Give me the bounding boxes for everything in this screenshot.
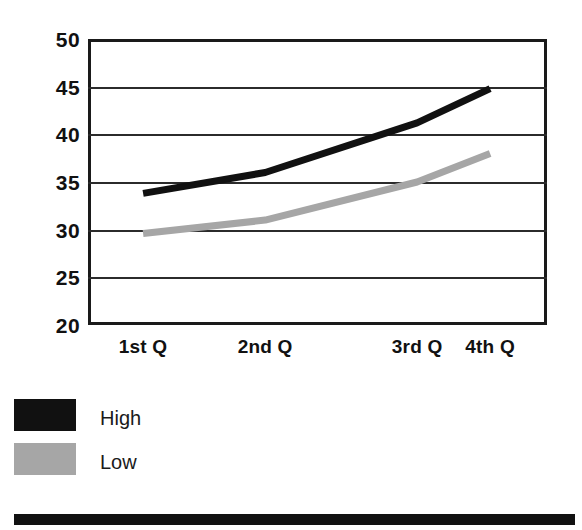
line-chart-figure: 50 45 40 35 30 25 20 1st Q 2nd Q 3rd Q 4…: [0, 0, 582, 530]
x-tick-label: 2nd Q: [238, 337, 293, 356]
y-tick-label: 25: [8, 267, 80, 288]
x-axis-tick-labels: 1st Q 2nd Q 3rd Q 4th Q: [88, 337, 547, 363]
legend-label-high: High: [100, 408, 141, 428]
legend-label-low: Low: [100, 452, 137, 472]
chart-legend: High Low: [14, 399, 274, 487]
series-line-low: [143, 153, 490, 233]
legend-item-high: High: [14, 399, 274, 443]
series-line-high: [143, 89, 490, 194]
legend-swatch-low: [14, 443, 76, 475]
bottom-rule: [14, 514, 575, 525]
series-layer: [88, 39, 547, 325]
y-tick-label: 40: [8, 124, 80, 145]
x-tick-label: 1st Q: [119, 337, 168, 356]
y-tick-label: 45: [8, 77, 80, 98]
x-tick-label: 3rd Q: [392, 337, 443, 356]
y-tick-label: 50: [8, 29, 80, 50]
plot-area: [88, 39, 547, 325]
y-tick-label: 20: [8, 315, 80, 336]
x-tick-label: 4th Q: [465, 337, 515, 356]
y-tick-label: 30: [8, 220, 80, 241]
y-tick-label: 35: [8, 172, 80, 193]
legend-swatch-high: [14, 399, 76, 431]
y-axis-tick-labels: 50 45 40 35 30 25 20: [0, 39, 80, 325]
legend-item-low: Low: [14, 443, 274, 487]
